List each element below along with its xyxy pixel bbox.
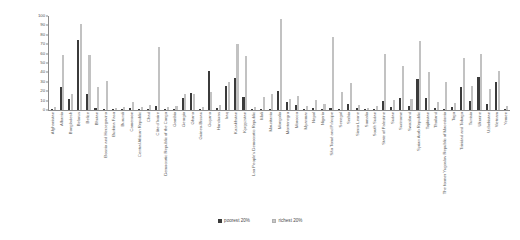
bar-richest	[367, 108, 369, 110]
bar-richest	[54, 107, 56, 110]
bar-group	[136, 16, 145, 110]
x-axis-tick-label: Nepal	[312, 112, 317, 123]
x-label-cell: Burundi	[119, 112, 128, 198]
x-axis-tick-label: Ukraine	[478, 112, 483, 126]
bar-group	[397, 16, 406, 110]
x-axis-tick-label: Uzbekistan	[486, 112, 491, 133]
bar-group	[66, 16, 75, 110]
x-label-cell: Chad	[145, 112, 154, 198]
x-axis-tick-label: Bosnia and Herzegovina	[103, 112, 108, 158]
bar-richest	[245, 56, 247, 110]
x-axis-tick-label: Montenegro	[286, 112, 291, 134]
x-axis-tick-label: Cameroon	[129, 112, 134, 132]
bar-richest	[202, 107, 204, 110]
x-label-cell: Tajikistan	[423, 112, 432, 198]
bar-group	[58, 16, 67, 110]
y-tick-label: 10	[40, 98, 45, 102]
bar-richest	[123, 107, 125, 110]
x-label-cell: Mongolia	[275, 112, 284, 198]
bar-richest	[410, 99, 412, 110]
bar-richest	[271, 94, 273, 110]
bar-richest	[384, 54, 386, 110]
x-axis-tick-label: Togo	[451, 112, 456, 121]
x-label-cell: Côte d'Ivoire	[153, 112, 162, 198]
bar-richest	[71, 94, 73, 110]
x-axis-labels: AfghanistanAlbaniaBangladeshBelarusBeliz…	[49, 112, 510, 198]
x-axis-tick-label: Senegal	[338, 112, 343, 127]
x-axis-tick-label: Thailand	[434, 112, 439, 128]
bar-group	[110, 16, 119, 110]
x-label-cell: Swaziland	[406, 112, 415, 198]
y-tick-label: 30	[40, 80, 45, 84]
bar-group	[458, 16, 467, 110]
x-label-cell: Senegal	[336, 112, 345, 198]
y-tick-label: 80	[40, 33, 45, 37]
bar-group	[371, 16, 380, 110]
bar-richest	[341, 92, 343, 110]
bar-group	[441, 16, 450, 110]
bar-group	[432, 16, 441, 110]
x-label-cell: Nepal	[310, 112, 319, 198]
x-axis-tick-label: Tajikistan	[425, 112, 430, 129]
x-axis-tick-label: Bhutan	[95, 112, 100, 125]
bar-group	[188, 16, 197, 110]
bar-richest	[445, 82, 447, 110]
bar-richest	[236, 44, 238, 110]
bar-group	[75, 16, 84, 110]
x-axis-tick-label: Iraq	[225, 112, 230, 119]
bar-richest	[437, 102, 439, 110]
legend-item[interactable]: richest 20%	[272, 219, 303, 224]
x-axis-tick-label: Tunisia	[469, 112, 474, 125]
x-axis-tick-label: Trinidad and Tobago	[460, 112, 465, 150]
x-axis-tick-label: State of Palestine	[382, 112, 387, 145]
legend-label: richest 20%	[278, 219, 302, 224]
x-label-cell: The former Yugoslav Republic of Macedoni…	[441, 112, 450, 198]
y-tick-label: 60	[40, 51, 45, 55]
bar-group	[362, 16, 371, 110]
bar-group	[345, 16, 354, 110]
legend-item[interactable]: poorest 20%	[218, 219, 250, 224]
x-axis-tick-label: Guinea-Bissau	[199, 112, 204, 139]
bar-richest	[471, 86, 473, 110]
bar-richest	[106, 81, 108, 110]
bar-richest	[193, 94, 195, 110]
x-axis-tick-label: Vietnam	[495, 112, 500, 127]
bar-group	[49, 16, 58, 110]
x-label-cell: Albania	[58, 112, 67, 198]
x-label-cell: Togo	[449, 112, 458, 198]
x-label-cell: Somalia	[362, 112, 371, 198]
bar-group	[101, 16, 110, 110]
plot-area: 0102030405060708090100	[26, 16, 510, 110]
x-axis-tick-label: Swaziland	[408, 112, 413, 131]
bar-richest	[297, 96, 299, 110]
bar-richest	[332, 37, 334, 110]
bar-richest	[463, 58, 465, 110]
bar-richest	[141, 107, 143, 110]
bars-container	[49, 16, 510, 110]
x-axis-tick-label: Sierra Leone	[356, 112, 361, 136]
x-label-cell: Kazakhstan	[232, 112, 241, 198]
bar-group	[406, 16, 415, 110]
bar-richest	[506, 106, 508, 110]
x-label-cell: Trinidad and Tobago	[458, 112, 467, 198]
bar-group	[180, 16, 189, 110]
bar-group	[328, 16, 337, 110]
y-tick-label: 40	[40, 70, 45, 74]
y-tick-label: 20	[40, 89, 45, 93]
x-label-cell: Ukraine	[475, 112, 484, 198]
x-axis-tick-label: Somalia	[364, 112, 369, 127]
bar-richest	[132, 102, 134, 110]
bar-group	[388, 16, 397, 110]
bar-group	[423, 16, 432, 110]
bar-richest	[88, 55, 90, 110]
x-label-cell: Ghana	[188, 112, 197, 198]
x-axis-tick-label: Chad	[147, 112, 152, 122]
x-axis-tick-label: Nigeria	[321, 112, 326, 125]
x-axis-tick-label: Suriname	[399, 112, 404, 130]
bar-richest	[210, 92, 212, 110]
x-label-cell: São Tomé and Príncipe	[328, 112, 337, 198]
bar-richest	[358, 105, 360, 110]
bar-group	[119, 16, 128, 110]
x-axis-tick-label: Belize	[86, 112, 91, 123]
legend-swatch-icon	[218, 219, 222, 223]
